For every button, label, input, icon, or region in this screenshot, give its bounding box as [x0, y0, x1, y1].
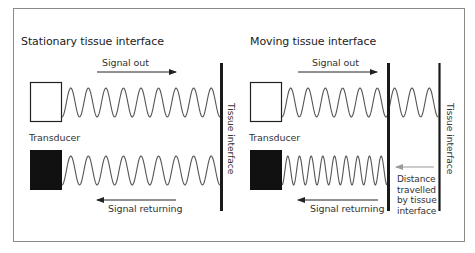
- label-signal-returning: Signal returning: [310, 203, 384, 214]
- label-transducer: Transducer: [29, 132, 80, 143]
- panel-title-moving: Moving tissue interface: [250, 35, 376, 48]
- label-tissue-interface: Tissue interface: [445, 103, 455, 174]
- transducer-receiving: [250, 150, 282, 190]
- label-distance-travelled: Distance travelled by tissue interface: [397, 174, 437, 216]
- doppler-diagram: Stationary tissue interface Signal out T…: [0, 0, 475, 253]
- label-transducer: Transducer: [249, 132, 300, 143]
- wave-signal-out: [282, 88, 438, 117]
- label-signal-out: Signal out: [312, 57, 359, 68]
- panel-title-stationary: Stationary tissue interface: [21, 35, 164, 48]
- distance-line-3: by tissue: [397, 195, 437, 206]
- distance-line-4: interface: [397, 206, 437, 217]
- label-tissue-interface: Tissue interface: [226, 103, 236, 174]
- wave-signal-out: [62, 88, 220, 117]
- transducer-emitting: [251, 83, 282, 122]
- transducer-receiving: [30, 150, 62, 190]
- distance-line-1: Distance: [397, 174, 437, 185]
- wave-signal-returning: [62, 156, 220, 185]
- label-signal-returning: Signal returning: [108, 203, 182, 214]
- label-signal-out: Signal out: [102, 57, 149, 68]
- wave-signal-returning-compressed: [282, 156, 387, 185]
- transducer-emitting: [31, 83, 62, 122]
- distance-line-2: travelled: [397, 185, 437, 196]
